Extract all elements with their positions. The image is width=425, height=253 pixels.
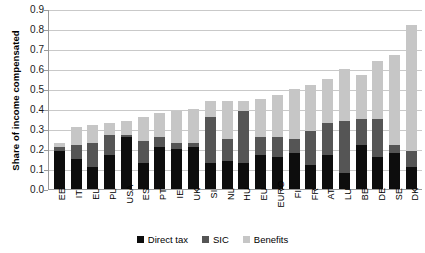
bar-column[interactable] (252, 10, 269, 189)
legend-swatch-icon (137, 236, 144, 243)
bar-segment-direct-tax (322, 155, 333, 189)
stacked-bar[interactable] (138, 117, 149, 189)
x-label-cell: IT (67, 192, 84, 232)
bar-segment-sic (322, 123, 333, 155)
bar-segment-direct-tax (389, 153, 400, 189)
bar-segment-benefits (71, 127, 82, 145)
bar-segment-direct-tax (104, 155, 115, 189)
bar-column[interactable] (219, 10, 236, 189)
bar-segment-benefits (272, 95, 283, 137)
legend-item[interactable]: Direct tax (137, 234, 188, 245)
stacked-bar[interactable] (188, 109, 199, 189)
bar-column[interactable] (202, 10, 219, 189)
y-tick-label: 0.0 (12, 185, 44, 195)
bar-segment-benefits (205, 101, 216, 117)
bar-column[interactable] (168, 10, 185, 189)
x-label-cell: IE (168, 192, 185, 232)
bar-segment-sic (205, 117, 216, 163)
x-label-cell: DE (369, 192, 386, 232)
stacked-bar[interactable] (272, 95, 283, 189)
bar-segment-sic (272, 137, 283, 157)
bar-column[interactable] (51, 10, 68, 189)
bar-segment-sic (71, 145, 82, 159)
bar-column[interactable] (101, 10, 118, 189)
x-label-cell: FI (285, 192, 302, 232)
bar-column[interactable] (386, 10, 403, 189)
bar-column[interactable] (135, 10, 152, 189)
x-label-cell: EE (50, 192, 67, 232)
stacked-bar[interactable] (71, 127, 82, 189)
bar-column[interactable] (185, 10, 202, 189)
legend-item[interactable]: Benefits (243, 234, 288, 245)
bar-segment-benefits (171, 111, 182, 143)
y-axis-title: Share of income compensated (10, 16, 21, 186)
stacked-bar[interactable] (104, 123, 115, 189)
bar-segment-direct-tax (222, 161, 233, 189)
bar-segment-sic (138, 141, 149, 163)
stacked-bar[interactable] (154, 113, 165, 189)
stacked-bar[interactable] (305, 85, 316, 189)
x-label-cell: PL (100, 192, 117, 232)
bar-column[interactable] (152, 10, 169, 189)
bar-segment-benefits (154, 113, 165, 137)
x-label-cell: UK (185, 192, 202, 232)
bar-column[interactable] (403, 10, 420, 189)
bar-column[interactable] (353, 10, 370, 189)
y-tick-label: 0.9 (12, 5, 44, 15)
bar-segment-direct-tax (54, 151, 65, 189)
x-label-cell: SE (386, 192, 403, 232)
bar-column[interactable] (319, 10, 336, 189)
bar-segment-direct-tax (154, 147, 165, 189)
bar-column[interactable] (85, 10, 102, 189)
stacked-bar[interactable] (339, 69, 350, 189)
x-label-cell: SI (201, 192, 218, 232)
x-label-cell: PT (151, 192, 168, 232)
bar-column[interactable] (336, 10, 353, 189)
bar-segment-benefits (372, 61, 383, 119)
bar-column[interactable] (235, 10, 252, 189)
stacked-bar[interactable] (238, 101, 249, 189)
bar-segment-sic (87, 143, 98, 167)
bar-segment-direct-tax (238, 163, 249, 189)
bar-segment-direct-tax (171, 149, 182, 189)
stacked-bar[interactable] (121, 121, 132, 189)
chart-legend: Direct taxSICBenefits (0, 234, 425, 245)
x-label-cell: EURO (269, 192, 286, 232)
bar-segment-direct-tax (138, 163, 149, 189)
stacked-bar[interactable] (372, 61, 383, 189)
stacked-bar[interactable] (406, 25, 417, 189)
bar-column[interactable] (118, 10, 135, 189)
stacked-bar[interactable] (222, 101, 233, 189)
stacked-bar[interactable] (389, 55, 400, 189)
legend-label: Benefits (254, 234, 288, 245)
bar-segment-benefits (121, 121, 132, 135)
x-label-cell: AT (319, 192, 336, 232)
bar-column[interactable] (269, 10, 286, 189)
bar-column[interactable] (370, 10, 387, 189)
stacked-bar[interactable] (171, 111, 182, 189)
legend-swatch-icon (243, 236, 250, 243)
bar-segment-sic (305, 131, 316, 165)
bar-segment-sic (238, 111, 249, 163)
bar-segment-sic (339, 121, 350, 173)
stacked-bar[interactable] (205, 101, 216, 189)
stacked-bar[interactable] (255, 99, 266, 189)
bar-column[interactable] (286, 10, 303, 189)
bar-segment-sic (154, 137, 165, 147)
stacked-bar[interactable] (87, 125, 98, 189)
bar-segment-benefits (138, 117, 149, 141)
x-label-cell: NL (218, 192, 235, 232)
bar-column[interactable] (68, 10, 85, 189)
legend-item[interactable]: SIC (202, 234, 229, 245)
bar-segment-sic (222, 139, 233, 161)
bar-series-container (49, 10, 422, 189)
stacked-bar[interactable] (289, 89, 300, 189)
stacked-bar[interactable] (54, 143, 65, 189)
plot-area (48, 10, 422, 190)
stacked-bar[interactable] (356, 75, 367, 189)
bar-segment-benefits (339, 69, 350, 121)
bar-column[interactable] (302, 10, 319, 189)
bar-segment-benefits (87, 125, 98, 143)
stacked-bar[interactable] (322, 79, 333, 189)
x-label-cell: USA (117, 192, 134, 232)
